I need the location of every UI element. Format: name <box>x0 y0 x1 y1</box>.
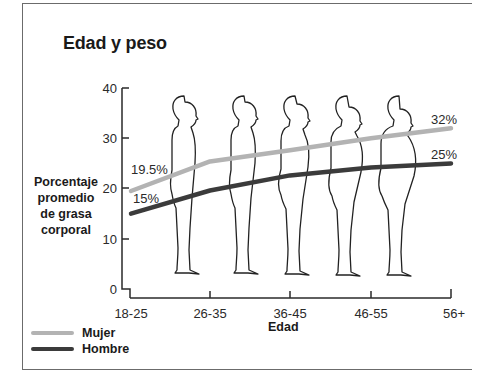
y-axis <box>122 88 130 298</box>
y-tick-label: 40 <box>103 81 117 96</box>
x-tick-label: 18-25 <box>114 306 147 321</box>
series-line-mujer <box>131 128 451 191</box>
x-tick-label: 36-45 <box>273 306 306 321</box>
silhouette-icon <box>329 96 363 276</box>
legend-item-mujer: Mujer <box>31 325 129 341</box>
x-tick-label: 26-35 <box>193 306 226 321</box>
annotation-mujer-start: 19.5% <box>131 162 168 177</box>
y-tick-label: 0 <box>110 282 117 297</box>
x-tick-label: 46-55 <box>354 306 387 321</box>
annotation-hombre-start: 15% <box>133 191 159 206</box>
legend-label: Mujer <box>82 326 115 340</box>
silhouette-icon <box>379 96 416 276</box>
silhouettes <box>171 96 416 276</box>
x-axis <box>130 289 451 298</box>
legend-swatch-mujer <box>31 331 74 335</box>
y-tick-label: 30 <box>103 131 117 146</box>
x-axis-label: Edad <box>268 320 299 334</box>
legend-label: Hombre <box>82 342 129 356</box>
annotation-mujer-end: 32% <box>431 112 457 127</box>
y-tick-label: 10 <box>103 232 117 247</box>
silhouette-icon <box>279 96 310 275</box>
silhouette-icon <box>171 96 200 274</box>
y-tick-labels: 40 30 20 10 0 <box>103 81 117 297</box>
legend-item-hombre: Hombre <box>31 341 129 357</box>
legend: Mujer Hombre <box>31 325 129 357</box>
y-axis-line <box>122 88 130 298</box>
annotation-hombre-end: 25% <box>431 147 457 162</box>
y-tick-label: 20 <box>103 181 117 196</box>
x-tick-label: 56+ <box>443 306 465 321</box>
legend-swatch-hombre <box>31 347 74 351</box>
x-tick-labels: 18-25 26-35 36-45 46-55 56+ <box>114 306 465 321</box>
